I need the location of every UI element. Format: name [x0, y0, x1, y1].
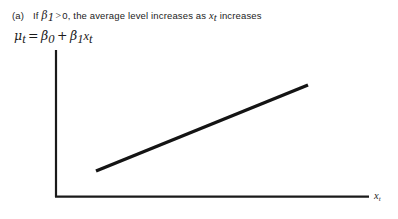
equals-operator: = — [26, 28, 41, 43]
caption-middle-text: the average level increases as — [73, 10, 209, 21]
x-axis-label-subscript: t — [379, 195, 381, 203]
formula-x-subscript: t — [89, 32, 92, 46]
x-axis-label: xt — [374, 190, 381, 201]
beta-symbol: β — [41, 9, 47, 21]
figure-container: (a)If β1>0, the average level increases … — [0, 0, 398, 219]
plus-operator: + — [55, 28, 70, 43]
beta1-subscript: 1 — [77, 32, 83, 46]
threshold-value: 0, — [62, 10, 70, 21]
x-axis-label-symbol: x — [374, 190, 379, 201]
y-axis-formula-label: μt=β0+β1xt — [14, 28, 93, 44]
panel-label: (a) — [12, 9, 24, 22]
beta-subscript: 1 — [48, 11, 55, 23]
mu-symbol: μ — [14, 28, 22, 43]
caption-suffix-text: increases — [220, 10, 262, 21]
figure-caption: (a)If β1>0, the average level increases … — [12, 9, 262, 22]
mu-subscript: t — [22, 32, 25, 46]
trend-line — [96, 85, 308, 171]
x-variable-subscript: t — [214, 12, 217, 23]
beta0-subscript: 0 — [48, 32, 54, 46]
